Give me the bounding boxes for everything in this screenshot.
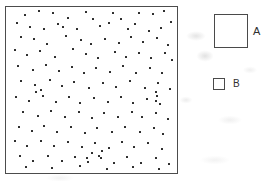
scatter-point [65, 35, 67, 37]
figure-root: A B [0, 0, 263, 181]
legend: A B [210, 10, 263, 105]
legend-swatch-large-icon [214, 14, 248, 48]
scatter-point [146, 98, 148, 100]
scatter-point [163, 10, 165, 12]
scatter-point [33, 38, 35, 40]
scatter-point [118, 42, 120, 44]
scatter-point [99, 25, 101, 27]
scatter-point [164, 52, 166, 54]
scatter-point [32, 69, 34, 71]
scatter-point [100, 157, 102, 159]
scatter-point [14, 140, 16, 142]
scatter-point [22, 111, 24, 113]
scatter-point [70, 126, 72, 128]
scatter-point [132, 102, 134, 104]
scatter-point [47, 155, 49, 157]
scatter-point [130, 36, 132, 38]
scatter-point [159, 103, 161, 105]
scatter-point [28, 100, 30, 102]
scatter-point [20, 36, 22, 38]
scatter-point [167, 118, 169, 120]
scatter-point [101, 150, 103, 152]
scatter-point [14, 49, 16, 51]
scatter-point [156, 95, 158, 97]
scatter-point [135, 72, 137, 74]
scatter-point [147, 142, 149, 144]
scatter-point [138, 52, 140, 54]
scatter-point [153, 127, 155, 129]
scatter-point [85, 53, 87, 55]
scatter-point [72, 48, 74, 50]
scatter-point [96, 127, 98, 129]
scatter-point [121, 141, 123, 143]
scatter-point [57, 23, 59, 25]
scatter-point [122, 65, 124, 67]
scatter-point [140, 162, 142, 164]
scatter-point [171, 59, 173, 61]
scatter-point [29, 26, 31, 28]
scatter-point [15, 96, 17, 98]
scatter-point [79, 102, 81, 104]
scatter-point [109, 71, 111, 73]
scatter-point [168, 163, 170, 165]
scatter-point [150, 57, 152, 59]
scatter-point [61, 160, 63, 162]
scatter-point [107, 101, 109, 103]
scatter-point [85, 11, 87, 13]
scatter-point [18, 126, 20, 128]
scatter-point [148, 30, 150, 32]
scatter-point [162, 133, 164, 135]
scatter-point [169, 88, 171, 90]
scatter-point [103, 112, 105, 114]
scatter-point [50, 110, 52, 112]
scatter-point [24, 14, 26, 16]
scatter-point [79, 165, 81, 167]
scatter-point [155, 91, 157, 93]
scatter-point [95, 67, 97, 69]
scatter-point [83, 72, 85, 74]
scatter-point [125, 56, 127, 58]
scatter-point [35, 91, 37, 93]
scatter-point [156, 37, 158, 39]
scatter-point [167, 44, 169, 46]
scatter-point [108, 22, 110, 24]
scatter-point [78, 111, 80, 113]
scatter-point [93, 97, 95, 99]
scatter-point [55, 101, 57, 103]
scatter-point [88, 87, 90, 89]
scatter-point [61, 85, 63, 87]
scatter-point [120, 18, 122, 20]
scatter-point [19, 155, 21, 157]
scatter-point [97, 57, 99, 59]
scatter-point [90, 43, 92, 45]
scatter-point [111, 131, 113, 133]
scatter-point [62, 26, 64, 28]
scatter-point [52, 12, 54, 14]
scatter-point [20, 80, 22, 82]
legend-swatch-small-icon [213, 78, 225, 90]
scatter-point [139, 131, 141, 133]
scatter-point [71, 66, 73, 68]
scatter-point [86, 157, 88, 159]
scatter-point [132, 166, 134, 168]
scatter-point [141, 116, 143, 118]
scatter-point [39, 50, 41, 52]
scatter-point [142, 41, 144, 43]
legend-label-a: A [253, 26, 260, 37]
scatter-point [58, 70, 60, 72]
scatter-point [126, 156, 128, 158]
scatter-point [112, 12, 114, 14]
scatter-point [34, 84, 36, 86]
scatter-point [51, 167, 53, 169]
scatter-point [73, 81, 75, 83]
scatter-point [98, 155, 100, 157]
scatter-point [49, 79, 51, 81]
scatter-point [155, 100, 157, 102]
scatter-point [160, 27, 162, 29]
scatter-point [54, 56, 56, 58]
scatter-point [68, 96, 70, 98]
scatter-point [161, 148, 163, 150]
scatter-point [92, 18, 94, 20]
scatter-point [16, 22, 18, 24]
scatter-point [94, 142, 96, 144]
